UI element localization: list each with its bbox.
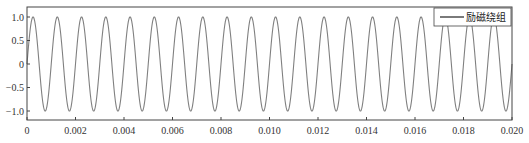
x-tick-label: 0.006 (161, 125, 184, 136)
legend-label: 励磁绕组 (466, 11, 506, 23)
y-tick-label: −0.5 (6, 82, 24, 93)
x-tick-label: 0.012 (307, 125, 330, 136)
x-tick-label: 0.008 (210, 125, 233, 136)
x-tick-label: 0.002 (64, 125, 87, 136)
y-tick-label: 0 (19, 59, 24, 70)
x-tick-label: 0.018 (452, 125, 475, 136)
y-tick-label: −1.0 (6, 106, 24, 117)
chart: 1.00.50−0.5−1.0 00.0020.0040.0060.0080.0… (0, 0, 529, 143)
x-tick-label: 0.014 (355, 125, 378, 136)
y-tick-label: 0.5 (12, 35, 25, 46)
plot-area (27, 17, 512, 111)
x-tick-label: 0 (25, 125, 30, 136)
legend: 励磁绕组 (434, 8, 511, 26)
series-line (27, 17, 512, 111)
x-tick-label: 0.004 (113, 125, 136, 136)
x-tick-label: 0.010 (258, 125, 281, 136)
x-tick-label: 0.020 (501, 125, 524, 136)
y-tick-label: 1.0 (12, 12, 25, 23)
x-tick-label: 0.016 (404, 125, 427, 136)
y-axis: 1.00.50−0.5−1.0 (6, 12, 30, 117)
